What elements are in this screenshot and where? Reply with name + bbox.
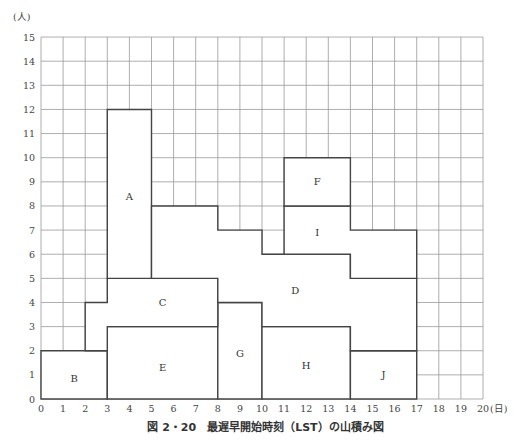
block-label-g: G bbox=[236, 348, 244, 359]
svg-text:2: 2 bbox=[29, 345, 35, 356]
svg-text:9: 9 bbox=[29, 176, 35, 187]
svg-text:6: 6 bbox=[171, 403, 177, 414]
chart: BEGHJCADIF 0123456789101112131415 012345… bbox=[0, 0, 531, 447]
svg-text:15: 15 bbox=[23, 32, 35, 43]
svg-text:11: 11 bbox=[23, 128, 35, 139]
y-axis-unit: (人) bbox=[13, 11, 30, 22]
svg-text:9: 9 bbox=[237, 403, 243, 414]
svg-text:5: 5 bbox=[148, 403, 154, 414]
svg-text:17: 17 bbox=[411, 403, 423, 414]
svg-text:4: 4 bbox=[29, 297, 35, 308]
svg-text:0: 0 bbox=[29, 394, 35, 405]
svg-text:1: 1 bbox=[60, 403, 66, 414]
svg-text:5: 5 bbox=[29, 273, 35, 284]
svg-text:19: 19 bbox=[455, 403, 467, 414]
block-label-b: B bbox=[70, 373, 77, 384]
block-label-f: F bbox=[314, 176, 321, 187]
svg-text:14: 14 bbox=[344, 403, 356, 414]
block-label-j: J bbox=[381, 369, 386, 380]
svg-text:13: 13 bbox=[322, 403, 334, 414]
svg-text:6: 6 bbox=[29, 249, 35, 260]
svg-text:4: 4 bbox=[126, 403, 132, 414]
block-label-a: A bbox=[125, 191, 134, 202]
svg-text:8: 8 bbox=[29, 200, 35, 211]
block-label-c: C bbox=[159, 297, 167, 308]
svg-text:8: 8 bbox=[215, 403, 221, 414]
svg-text:14: 14 bbox=[23, 56, 35, 67]
x-axis-ticks: 01234567891011121314151617181920(日) bbox=[38, 403, 507, 414]
svg-text:16: 16 bbox=[389, 403, 401, 414]
block-label-d: D bbox=[291, 285, 299, 296]
svg-text:12: 12 bbox=[300, 403, 312, 414]
svg-text:1: 1 bbox=[29, 369, 35, 380]
svg-text:3: 3 bbox=[104, 403, 110, 414]
svg-text:13: 13 bbox=[23, 80, 35, 91]
svg-text:10: 10 bbox=[256, 403, 268, 414]
svg-text:0: 0 bbox=[38, 403, 44, 414]
svg-text:11: 11 bbox=[278, 403, 290, 414]
svg-text:20: 20 bbox=[477, 403, 489, 414]
block-label-e: E bbox=[159, 362, 166, 373]
svg-text:(日): (日) bbox=[490, 403, 507, 414]
svg-text:3: 3 bbox=[29, 321, 35, 332]
svg-text:18: 18 bbox=[433, 403, 445, 414]
svg-text:15: 15 bbox=[366, 403, 378, 414]
y-axis-ticks: 0123456789101112131415 bbox=[23, 32, 35, 405]
svg-text:12: 12 bbox=[23, 104, 35, 115]
svg-text:2: 2 bbox=[82, 403, 88, 414]
block-label-i: I bbox=[315, 227, 319, 238]
svg-text:10: 10 bbox=[23, 152, 35, 163]
svg-text:7: 7 bbox=[29, 225, 35, 236]
block-label-h: H bbox=[302, 360, 311, 371]
figure-caption: 図 2・20 最遅早開始時刻（LST）の山積み図 bbox=[0, 418, 531, 434]
svg-text:7: 7 bbox=[193, 403, 199, 414]
